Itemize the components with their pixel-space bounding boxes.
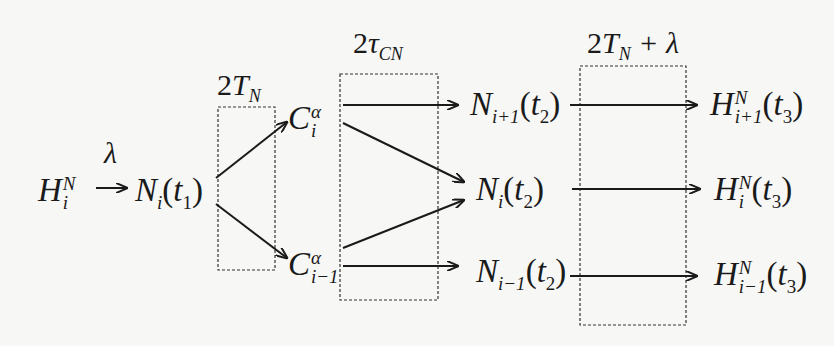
- node-h-i-plus-1-t3: HNi+1(t3): [710, 88, 803, 126]
- arrow-n1-to-ci-1: [216, 204, 287, 258]
- label-2tn-plus-lambda: 2TN + λ: [587, 28, 679, 63]
- node-h-i-minus-1-t3: HNi−1(t3): [714, 258, 807, 296]
- label-lambda: λ: [104, 138, 117, 168]
- box-2tn: [218, 107, 275, 270]
- node-h-i-t3: HNi(t3): [714, 173, 792, 211]
- node-h-i: HNi: [38, 174, 76, 212]
- node-n-i-t1: Ni(t1): [135, 174, 203, 207]
- node-n-i-minus-1-t2: Ni−1(t2): [476, 255, 566, 288]
- label-2tn: 2TN: [217, 70, 261, 105]
- label-2tau-cn: 2τCN: [353, 28, 403, 63]
- node-n-i-plus-1-t2: Ni+1(t2): [470, 88, 560, 121]
- node-c-i-minus-1: Cαi−1: [288, 248, 339, 286]
- diagram-canvas: [0, 0, 834, 346]
- arrow-ci-to-ni: [343, 123, 464, 182]
- arrow-ci-1-to-ni: [343, 200, 464, 248]
- node-n-i-t2: Ni(t2): [476, 173, 544, 206]
- node-c-i: Cαi: [288, 102, 321, 140]
- arrow-n1-to-ci: [216, 122, 287, 178]
